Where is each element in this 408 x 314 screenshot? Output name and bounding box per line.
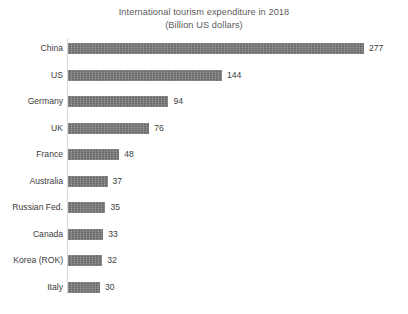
category-label: US xyxy=(0,70,63,81)
value-label: 76 xyxy=(154,123,164,134)
value-label: 94 xyxy=(173,96,183,107)
bar-row: Canada 33 xyxy=(0,229,408,256)
category-label: Italy xyxy=(0,282,63,293)
bar-row: China 277 xyxy=(0,43,408,70)
bar-row: Russian Fed. 35 xyxy=(0,202,408,229)
chart-title: International tourism expenditure in 201… xyxy=(0,6,408,19)
bar-row: Korea (ROK) 32 xyxy=(0,255,408,282)
bar[interactable] xyxy=(68,123,149,134)
category-label: China xyxy=(0,43,63,54)
category-label: Germany xyxy=(0,96,63,107)
bar[interactable] xyxy=(68,282,100,293)
category-label: Russian Fed. xyxy=(0,202,63,213)
value-label: 30 xyxy=(105,282,115,293)
bar-row: Germany 94 xyxy=(0,96,408,123)
bar[interactable] xyxy=(68,229,103,240)
category-label: UK xyxy=(0,123,63,134)
category-label: Korea (ROK) xyxy=(0,255,63,266)
value-label: 144 xyxy=(227,70,241,81)
value-label: 48 xyxy=(124,149,134,160)
category-label: Canada xyxy=(0,229,63,240)
bar-row: US 144 xyxy=(0,70,408,97)
chart-title-block: International tourism expenditure in 201… xyxy=(0,6,408,32)
bar[interactable] xyxy=(68,43,364,54)
tourism-expenditure-bar-chart: International tourism expenditure in 201… xyxy=(0,0,408,314)
chart-subtitle: (Billion US dollars) xyxy=(0,19,408,32)
plot-area: China 277 US 144 Germany 94 UK 76 France… xyxy=(0,36,408,298)
bar[interactable] xyxy=(68,96,168,107)
value-label: 35 xyxy=(110,202,120,213)
bar-row: Italy 30 xyxy=(0,282,408,309)
bar[interactable] xyxy=(68,202,105,213)
bar[interactable] xyxy=(68,70,222,81)
bar-row: Australia 37 xyxy=(0,176,408,203)
bar[interactable] xyxy=(68,176,108,187)
value-label: 33 xyxy=(108,229,118,240)
value-label: 277 xyxy=(369,43,383,54)
value-label: 32 xyxy=(107,255,117,266)
category-label: Australia xyxy=(0,176,63,187)
value-label: 37 xyxy=(113,176,123,187)
category-label: France xyxy=(0,149,63,160)
bar-row: UK 76 xyxy=(0,123,408,150)
bar[interactable] xyxy=(68,255,102,266)
bar-row: France 48 xyxy=(0,149,408,176)
bar[interactable] xyxy=(68,149,119,160)
